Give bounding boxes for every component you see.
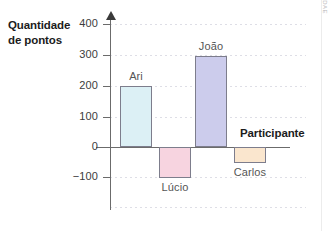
page-edge-rule	[321, 0, 322, 231]
bar-ari	[120, 86, 152, 147]
y-tick-label-100: 100	[79, 110, 98, 122]
bar-label-ari: Ari	[112, 70, 160, 82]
y-axis-arrow-icon	[106, 11, 116, 20]
bar-label-carlos: Carlos	[226, 166, 274, 178]
x-axis-title: Participante	[240, 127, 305, 139]
watermark-text: DAE	[322, 0, 328, 14]
y-axis-title-line2: de pontos	[8, 33, 94, 48]
y-tick-0	[103, 147, 111, 148]
chart-canvas: 400 300 200 100 0 −100 Quantidade de pon…	[0, 0, 332, 231]
bar-label-lucio: Lúcio	[151, 181, 199, 193]
y-tick-label-300: 300	[79, 48, 98, 60]
gridline-minus-100	[110, 177, 306, 178]
y-tick-minus-100	[103, 177, 111, 178]
y-tick-label-0: 0	[92, 140, 98, 152]
bar-label-joao: João	[187, 40, 235, 52]
gridline-minus-200	[110, 207, 306, 208]
y-axis-line	[110, 18, 111, 210]
gridline-400	[110, 24, 306, 25]
bar-joao	[195, 56, 227, 147]
bar-carlos	[234, 147, 266, 163]
y-tick-400	[103, 24, 111, 25]
y-tick-100	[103, 117, 111, 118]
y-tick-label-minus-100: −100	[73, 170, 98, 182]
y-axis-title: Quantidade de pontos	[8, 18, 94, 47]
bar-lucio	[159, 147, 191, 178]
y-tick-label-200: 200	[79, 79, 98, 91]
y-tick-200	[103, 86, 111, 87]
y-axis-title-line1: Quantidade	[8, 18, 94, 33]
y-tick-300	[103, 55, 111, 56]
